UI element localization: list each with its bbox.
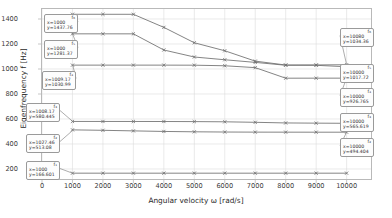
callout-y-value: y=1034.36 (343, 40, 371, 45)
x-tick-10000: 10000 (327, 183, 367, 190)
annotation-callout-right: f₅x=10000y=1017.72 (340, 64, 374, 83)
y-tick-1400: 1400 (0, 16, 18, 23)
annotation-callout-left: f₁x=1000y=166.601 (26, 161, 60, 180)
callout-y-value: y=1437.76 (47, 26, 75, 31)
y-tick-1200: 1200 (0, 41, 18, 48)
callout-y-value: y=926.765 (343, 100, 371, 105)
callout-y-value: y=494.404 (343, 150, 371, 155)
x-axis-label: Angular velocity ω [rad/s] (0, 196, 392, 205)
y-tick-600: 600 (0, 116, 18, 123)
annotation-callout-right: f₆x=10080y=1034.36 (340, 28, 374, 47)
callout-y-value: y=580.445 (29, 115, 57, 120)
callout-y-value: y=1281.37 (47, 52, 75, 57)
annotation-callout-left: f₃x=1008.17y=580.445 (26, 103, 60, 122)
annotation-callout-left: f₂x=1027.46y=513.08 (26, 134, 60, 153)
y-tick-400: 400 (0, 141, 18, 148)
callout-y-value: y=565.619 (343, 125, 371, 130)
callout-y-value: y=513.08 (29, 146, 57, 151)
series-lines (42, 9, 371, 179)
annotation-callout-right: f₂x=10000y=494.404 (340, 138, 374, 157)
callout-y-value: y=1017.72 (343, 76, 371, 81)
y-tick-200: 200 (0, 166, 18, 173)
annotation-callout-left: f₄x=1009.17y=1030.99 (42, 71, 76, 90)
callout-y-value: y=166.601 (29, 173, 57, 178)
callout-y-value: y=1030.99 (45, 83, 73, 88)
plot-area (41, 8, 372, 180)
y-tick-800: 800 (0, 91, 18, 98)
y-tick-1000: 1000 (0, 66, 18, 73)
annotation-callout-right: f₃x=10000y=565.619 (340, 113, 374, 132)
annotation-callout-left: f₅x=1000y=1281.37 (44, 40, 78, 59)
annotation-callout-right: f₄x=10000y=926.765 (340, 88, 374, 107)
campbell-diagram-figure: Eigenfrequency f [Hz] 200400600800100012… (0, 0, 392, 218)
annotation-callout-left: f₆x=1000y=1437.76 (44, 14, 78, 33)
